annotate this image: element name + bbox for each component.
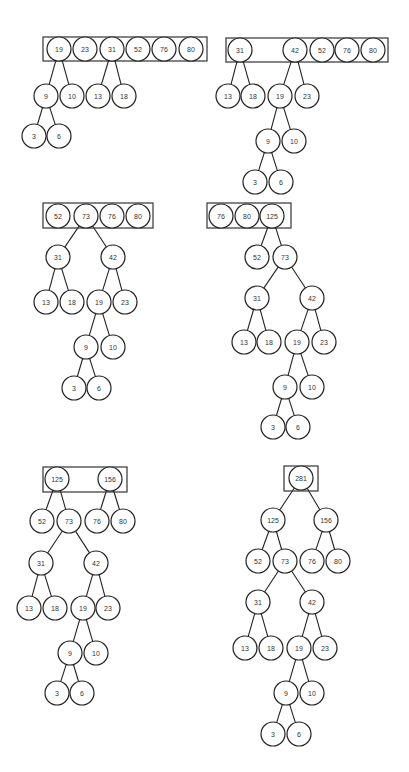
tree-edge xyxy=(302,660,308,682)
tree-edge xyxy=(284,61,292,84)
node-weight-label: 10 xyxy=(308,690,316,697)
tree-edge xyxy=(329,532,334,550)
tree-node-3: 3 xyxy=(261,415,285,439)
node-weight-label: 52 xyxy=(54,213,62,220)
tree-edge xyxy=(77,359,82,377)
tree-node-76: 76 xyxy=(209,204,233,228)
node-weight-label: 76 xyxy=(93,518,101,525)
tree-node-31: 31 xyxy=(228,38,252,62)
tree-node-31: 31 xyxy=(245,286,269,310)
node-weight-label: 10 xyxy=(308,384,316,391)
tree-edge xyxy=(261,227,268,245)
tree-node-6: 6 xyxy=(286,415,310,439)
tree-node-73: 73 xyxy=(74,204,98,228)
node-weight-label: 76 xyxy=(160,46,168,53)
tree-node-9: 9 xyxy=(256,129,280,153)
node-weight-label: 6 xyxy=(279,179,283,186)
node-weight-label: 42 xyxy=(92,560,100,567)
node-weight-label: 73 xyxy=(281,558,289,565)
tree-edge xyxy=(264,267,278,288)
tree-node-42: 42 xyxy=(283,38,307,62)
tree-edge xyxy=(316,531,322,549)
tree-node-80: 80 xyxy=(235,204,259,228)
tree-node-10: 10 xyxy=(282,129,306,153)
tree-node-73: 73 xyxy=(57,509,81,533)
step-panel-5: 1251565273768031421318192391036 xyxy=(17,467,135,705)
tree-edge xyxy=(272,152,278,170)
tree-node-18: 18 xyxy=(43,596,67,620)
step-panel-3: 5273768031421318192391036 xyxy=(34,203,153,400)
tree-node-19: 19 xyxy=(87,290,111,314)
node-weight-label: 23 xyxy=(81,46,89,53)
tree-node-19: 19 xyxy=(285,330,309,354)
node-weight-label: 13 xyxy=(241,645,249,652)
tree-node-13: 13 xyxy=(86,84,110,108)
tree-node-23: 23 xyxy=(73,37,97,61)
figure-caption xyxy=(0,763,409,772)
node-weight-label: 23 xyxy=(121,299,129,306)
tree-edge xyxy=(116,269,122,291)
tree-edge xyxy=(62,61,69,85)
node-weight-label: 18 xyxy=(267,645,275,652)
node-weight-label: 42 xyxy=(291,47,299,54)
tree-edge xyxy=(90,358,96,376)
node-weight-label: 281 xyxy=(295,475,307,482)
node-weight-label: 10 xyxy=(109,344,117,351)
tree-edge xyxy=(37,107,42,124)
tree-node-19: 19 xyxy=(287,636,311,660)
node-weight-label: 19 xyxy=(95,299,103,306)
tree-node-6: 6 xyxy=(47,124,71,148)
tree-node-9: 9 xyxy=(34,84,58,108)
step-panel-1: 192331527680910131836 xyxy=(22,37,207,148)
tree-edge xyxy=(46,490,53,509)
tree-node-76: 76 xyxy=(300,549,324,573)
node-weight-label: 31 xyxy=(108,46,116,53)
tree-edge xyxy=(259,152,265,170)
tree-edge xyxy=(271,108,277,130)
tree-edge xyxy=(62,268,69,290)
tree-edge xyxy=(86,575,92,597)
tree-node-9: 9 xyxy=(58,641,82,665)
node-weight-label: 10 xyxy=(68,93,76,100)
tree-node-13: 13 xyxy=(17,596,41,620)
tree-node-10: 10 xyxy=(60,84,84,108)
node-weight-label: 3 xyxy=(32,133,36,140)
tree-node-52: 52 xyxy=(30,509,54,533)
tree-node-80: 80 xyxy=(326,549,350,573)
tree-node-31: 31 xyxy=(246,590,270,614)
node-weight-label: 80 xyxy=(369,47,377,54)
tree-edge xyxy=(99,575,105,597)
tree-node-125: 125 xyxy=(45,467,69,491)
tree-edge xyxy=(49,61,56,85)
tree-edge xyxy=(289,398,295,415)
tree-node-10: 10 xyxy=(101,335,125,359)
tree-node-13: 13 xyxy=(232,330,256,354)
tree-node-3: 3 xyxy=(45,681,69,705)
tree-node-9: 9 xyxy=(273,375,297,399)
tree-node-18: 18 xyxy=(241,84,265,108)
node-weight-label: 10 xyxy=(92,650,100,657)
tree-edge xyxy=(262,531,269,549)
tree-node-156: 156 xyxy=(314,508,338,532)
tree-edge xyxy=(288,354,294,376)
tree-edge xyxy=(115,61,121,85)
node-weight-label: 19 xyxy=(295,645,303,652)
node-weight-label: 18 xyxy=(120,93,128,100)
node-weight-label: 31 xyxy=(236,47,244,54)
tree-edge xyxy=(86,620,92,642)
tree-node-10: 10 xyxy=(84,641,108,665)
node-weight-label: 52 xyxy=(318,47,326,54)
node-weight-label: 52 xyxy=(254,558,262,565)
tree-node-19: 19 xyxy=(268,84,292,108)
node-weight-label: 23 xyxy=(320,339,328,346)
node-weight-label: 9 xyxy=(284,690,288,697)
node-weight-label: 10 xyxy=(290,138,298,145)
tree-node-125: 125 xyxy=(260,204,284,228)
tree-node-9: 9 xyxy=(74,335,98,359)
node-weight-label: 13 xyxy=(25,605,33,612)
node-weight-label: 31 xyxy=(54,254,62,261)
tree-edge xyxy=(315,614,321,637)
tree-node-52: 52 xyxy=(246,549,270,573)
tree-node-23: 23 xyxy=(96,596,120,620)
node-weight-label: 6 xyxy=(57,133,61,140)
